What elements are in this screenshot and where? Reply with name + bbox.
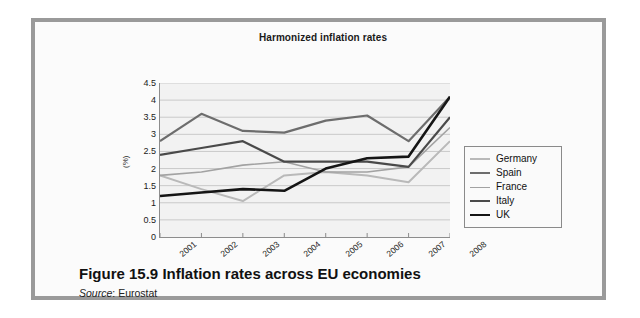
legend-swatch-icon [470, 200, 490, 202]
y-tick-label: 3.5 [143, 113, 156, 121]
x-tick-label: 2003 [260, 239, 281, 259]
chart-legend: GermanySpainFranceItalyUK [464, 146, 562, 228]
legend-item-spain[interactable]: Spain [470, 166, 555, 180]
y-tick-label: 0 [151, 233, 156, 241]
legend-item-italy[interactable]: Italy [470, 194, 555, 208]
legend-item-uk[interactable]: UK [470, 208, 555, 222]
caption-source: Source: Eurostat [79, 287, 599, 300]
x-axis-ticks: 20012002200320042005200620072008 [159, 239, 459, 267]
series-line-italy [160, 117, 450, 167]
figure-caption: Figure 15.9 Inflation rates across EU ec… [79, 264, 599, 300]
y-tick-label: 0.5 [143, 216, 156, 224]
legend-swatch-icon [470, 172, 490, 174]
y-tick-label: 3 [151, 130, 156, 138]
x-tick-label: 2006 [385, 239, 406, 259]
legend-label: France [496, 180, 527, 194]
legend-label: Spain [496, 166, 522, 180]
legend-label: Italy [496, 194, 514, 208]
legend-label: UK [496, 208, 510, 222]
y-tick-label: 4.5 [143, 79, 156, 87]
caption-line: Figure 15.9 Inflation rates across EU ec… [79, 264, 599, 283]
figure-frame: Harmonized inflation rates (%) 00.511.52… [31, 18, 606, 300]
legend-swatch-icon [470, 214, 490, 216]
caption-number: Figure 15.9 [79, 265, 158, 282]
legend-label: Germany [496, 152, 537, 166]
y-tick-label: 2.5 [143, 147, 156, 155]
x-tick-label: 2005 [343, 239, 364, 259]
legend-item-germany[interactable]: Germany [470, 152, 555, 166]
legend-item-france[interactable]: France [470, 180, 555, 194]
y-tick-label: 2 [151, 165, 156, 173]
y-tick-label: 4 [151, 96, 156, 104]
x-tick-label: 2001 [177, 239, 198, 259]
source-value: Eurostat [118, 287, 157, 299]
x-tick-label: 2002 [219, 239, 240, 259]
chart-svg [160, 83, 450, 237]
gridlines [160, 83, 450, 237]
figure-page: Harmonized inflation rates (%) 00.511.52… [0, 0, 640, 318]
legend-swatch-icon [470, 187, 490, 188]
x-tick-label: 2004 [302, 239, 323, 259]
plot-area [159, 83, 450, 238]
source-label: Source [79, 287, 112, 299]
y-tick-label: 1.5 [143, 182, 156, 190]
legend-swatch-icon [470, 158, 490, 160]
chart-title: Harmonized inflation rates [193, 32, 453, 43]
caption-text: Inflation rates across EU economies [162, 265, 420, 282]
y-tick-label: 1 [151, 199, 156, 207]
chart-container: Harmonized inflation rates (%) 00.511.52… [43, 28, 595, 240]
x-tick-label: 2007 [426, 239, 447, 259]
y-axis-ticks: 00.511.522.533.544.5 [128, 83, 156, 237]
plot-wrap: (%) 00.511.522.533.544.5 200120022003200… [43, 50, 595, 240]
x-tick-label: 2008 [467, 239, 488, 259]
